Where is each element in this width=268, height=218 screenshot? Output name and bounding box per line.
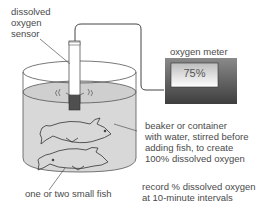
sensor-label: dissolved oxygen sensor (11, 6, 51, 39)
oxygen-meter (165, 58, 237, 104)
record-label: record % dissolved oxygen at 10-minute i… (142, 181, 256, 203)
meter-reading: 75% (171, 68, 218, 79)
fish-label: one or two small fish (25, 188, 112, 199)
beaker-label: beaker or container with water, stirred … (145, 120, 249, 164)
meter-label: oxygen meter (170, 46, 228, 57)
sensor-leader (40, 39, 70, 64)
